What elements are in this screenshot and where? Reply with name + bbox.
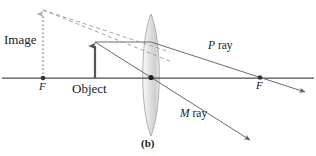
p-ray-label: P ray bbox=[208, 40, 233, 52]
m-ray-label: M ray bbox=[180, 108, 207, 120]
p-ray-label-symbol: P bbox=[208, 39, 215, 51]
object-label: Object bbox=[72, 82, 107, 95]
m-ray-label-word: ray bbox=[190, 107, 208, 119]
focal-point-right-label: F bbox=[256, 80, 263, 91]
ray-diagram-canvas bbox=[0, 0, 316, 156]
m-ray-label-symbol: M bbox=[180, 107, 190, 119]
lens-center-dot bbox=[148, 75, 153, 80]
focal-point-left-label: F bbox=[39, 81, 46, 92]
panel-label: (b) bbox=[141, 138, 154, 149]
image-label: Image bbox=[4, 33, 36, 46]
optics-ray-diagram-figure: Image Object F F P ray M ray (b) bbox=[0, 0, 316, 156]
p-ray-label-word: ray bbox=[215, 39, 233, 51]
m-ray bbox=[95, 42, 250, 140]
